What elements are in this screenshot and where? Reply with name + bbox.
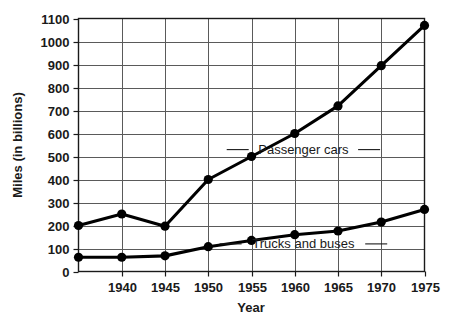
- series-data-point: [420, 21, 429, 30]
- y-axis-tick-label: 1100: [41, 12, 69, 27]
- y-axis-tick-label: 400: [48, 173, 70, 188]
- y-axis-tick-label: 0: [62, 265, 69, 280]
- x-axis-tick-label: 1970: [367, 280, 396, 295]
- series-data-point: [117, 209, 126, 218]
- series-data-point: [204, 242, 213, 251]
- y-axis-tick-label: 1000: [41, 35, 70, 50]
- series-data-point: [377, 61, 386, 70]
- series-data-point: [290, 129, 299, 138]
- series-data-point: [333, 101, 342, 110]
- series-data-point: [247, 152, 256, 161]
- series-label-passenger-cars: Passenger cars: [258, 142, 349, 157]
- series-data-point: [160, 251, 169, 260]
- line-chart: 010020030040050060070080090010001100 194…: [0, 0, 459, 330]
- y-axis-tick-label: 900: [48, 58, 70, 73]
- series-data-point: [74, 221, 83, 230]
- x-axis-tick-label: 1965: [324, 280, 353, 295]
- y-axis-tick-label: 700: [48, 104, 70, 119]
- y-axis-tick-label: 300: [48, 196, 70, 211]
- series-data-point: [333, 226, 342, 235]
- series-data-point: [160, 222, 169, 231]
- series-data-point: [117, 253, 126, 262]
- x-axis-title: Year: [237, 300, 264, 315]
- series-data-point: [204, 175, 213, 184]
- y-axis-title: Miles (in billions): [10, 92, 25, 197]
- x-axis-tick-label: 1975: [411, 280, 440, 295]
- x-axis-tick-label: 1960: [281, 280, 310, 295]
- x-axis-tick-label: 1955: [238, 280, 267, 295]
- x-axis-tick-label: 1950: [194, 280, 223, 295]
- y-axis-tick-label: 100: [48, 242, 70, 257]
- y-axis-tick-label: 600: [48, 127, 70, 142]
- series-label-trucks-and-buses: Trucks and buses: [252, 236, 355, 251]
- y-axis-tick-label: 800: [48, 81, 70, 96]
- x-axis-tick-label: 1945: [151, 280, 180, 295]
- y-axis-tick-label: 500: [48, 150, 70, 165]
- series-data-point: [377, 217, 386, 226]
- x-axis-tick-label: 1940: [108, 280, 137, 295]
- y-axis-tick-label: 200: [48, 219, 70, 234]
- series-data-point: [420, 205, 429, 214]
- chart-container: 010020030040050060070080090010001100 194…: [0, 0, 459, 330]
- series-data-point: [74, 253, 83, 262]
